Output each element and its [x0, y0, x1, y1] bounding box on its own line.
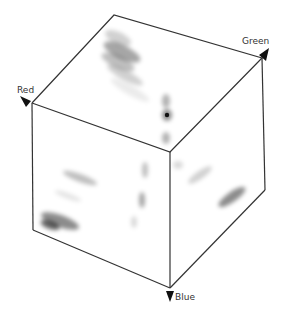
cube-edges	[32, 15, 265, 288]
bottom-left-edge	[33, 230, 170, 288]
left-edge	[32, 103, 33, 230]
bottom-right-edge	[170, 190, 265, 288]
red-axis-label: Red	[17, 86, 34, 95]
top-face-density	[99, 27, 172, 144]
left-face-density	[39, 162, 148, 233]
blue-axis-arrow-icon	[166, 291, 174, 302]
blue-axis-label: Blue	[175, 293, 195, 302]
right-edge	[262, 58, 265, 190]
green-axis-label: Green	[242, 37, 269, 46]
top-face-outline	[32, 15, 262, 152]
red-axis-arrow-icon	[20, 96, 31, 107]
color-cube-diagram	[0, 0, 291, 322]
right-face-density	[173, 161, 248, 210]
top-face-peak	[165, 113, 169, 117]
